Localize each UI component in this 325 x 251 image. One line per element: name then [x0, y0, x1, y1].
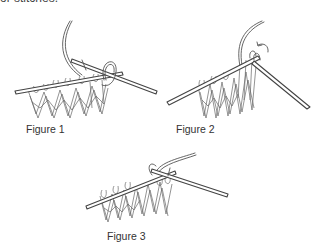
figure-1-illustration [15, 21, 157, 118]
knitted-fabric [198, 58, 256, 118]
figure-2-label: Figure 2 [176, 123, 215, 135]
right-needle [252, 61, 310, 109]
figure-3-illustration [86, 153, 228, 222]
right-needle [151, 169, 228, 197]
figure-2-illustration [167, 21, 310, 118]
figure-3-label: Figure 3 [107, 230, 146, 242]
knitted-fabric [28, 74, 108, 118]
figure-1-label: Figure 1 [26, 123, 65, 135]
